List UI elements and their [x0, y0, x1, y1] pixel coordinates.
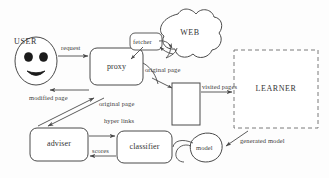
edge-original-page-2-line — [48, 98, 104, 126]
user-face-icon — [15, 37, 57, 85]
classifier-node-shape — [117, 131, 172, 163]
edge-proxy-right-curve — [143, 63, 158, 84]
diagram-graphics — [0, 0, 329, 178]
model-blob-tail — [176, 145, 191, 162]
diagram-canvas: USER proxy fetcher WEB LEARNER adviser c… — [0, 0, 329, 178]
edge-adviser-to-proxy-line — [38, 98, 94, 126]
adviser-node-shape — [30, 128, 88, 161]
model-blob-shape — [190, 133, 222, 162]
edge-proxy-to-visited-line — [152, 78, 172, 88]
web-cloud-shape — [161, 9, 222, 57]
visited-pages-store-shape — [172, 83, 200, 125]
fetcher-node-shape — [130, 33, 162, 50]
edge-generated-model-line — [226, 131, 248, 146]
proxy-node-shape — [90, 48, 143, 85]
learner-node-shape — [234, 50, 318, 128]
